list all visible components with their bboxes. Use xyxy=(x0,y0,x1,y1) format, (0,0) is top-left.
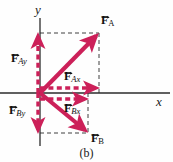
vector-symbol-F_Bx: F xyxy=(64,102,71,114)
vector-symbol-F_Ay: F xyxy=(11,52,18,64)
vector-symbol-text: F xyxy=(11,51,18,65)
vector-symbol-text: F xyxy=(64,69,71,83)
vector-subscript-F_By: By xyxy=(16,108,25,118)
vector-label-F_B: FB xyxy=(91,132,104,146)
vector-subscript-F_Bx: Bx xyxy=(71,106,80,116)
vector-subscript-F_A: A xyxy=(108,18,114,28)
vector-symbol-F_A: F xyxy=(101,14,108,26)
vector-symbol-F_By: F xyxy=(9,104,16,116)
vector-label-F_Ax: FAx xyxy=(64,70,80,84)
coordinate-axes xyxy=(0,18,170,146)
vector-subscript-F_Ax: Ax xyxy=(71,74,80,84)
vector-symbol-text: F xyxy=(101,13,108,27)
vector-subscript-F_B: B xyxy=(98,136,104,146)
diagram-canvas xyxy=(0,0,173,162)
vector-label-F_A: FA xyxy=(101,14,114,28)
vector-symbol-F_B: F xyxy=(91,132,98,144)
vector-symbol-text: F xyxy=(9,103,16,117)
vector-symbol-text: F xyxy=(91,131,98,145)
vector-F_A-arrow xyxy=(40,36,96,93)
y-axis-label: y xyxy=(35,3,41,16)
vector-label-F_By: FBy xyxy=(9,104,25,118)
x-axis-label: x xyxy=(156,95,162,108)
vector-subscript-F_Ay: Ay xyxy=(18,56,27,66)
vector-symbol-F_Ax: F xyxy=(64,70,71,82)
force-vector-diagram: y x FA FAy FAx FBx xyxy=(0,0,173,162)
figure-caption: (b) xyxy=(0,146,173,161)
vector-label-F_Bx: FBx xyxy=(64,102,80,116)
vector-symbol-text: F xyxy=(64,101,71,115)
vector-label-F_Ay: FAy xyxy=(11,52,27,66)
